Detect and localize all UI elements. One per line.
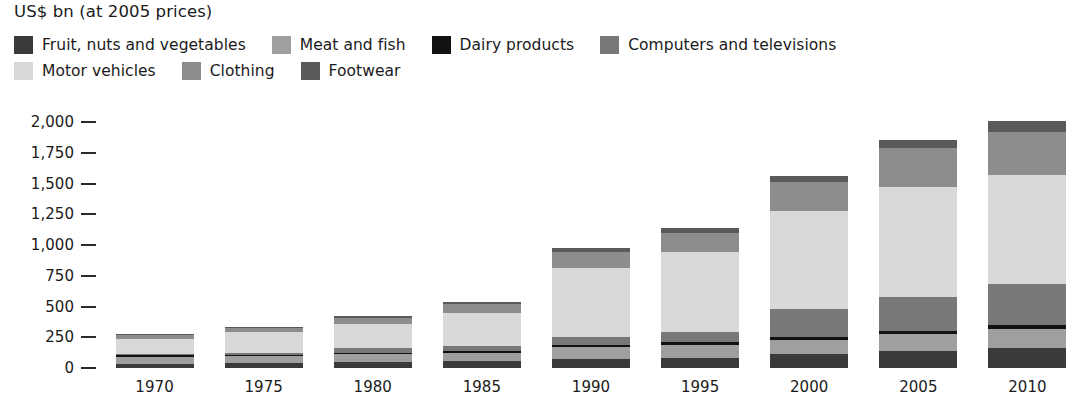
y-axis-tick-mark — [81, 336, 96, 338]
y-axis-tick-label: 750 — [45, 267, 74, 285]
y-axis-tick-label: 0 — [64, 359, 74, 377]
y-axis-tick-mark — [81, 244, 96, 246]
bar-segment[interactable] — [988, 175, 1066, 284]
x-axis-tick-label: 2005 — [879, 378, 957, 396]
y-axis: 2,0001,7501,5001,2501,0007505002500 — [0, 0, 100, 398]
bar-stack — [443, 302, 521, 368]
bar-segment[interactable] — [334, 324, 412, 349]
bar-segment[interactable] — [552, 347, 630, 359]
bar-stack — [116, 334, 194, 368]
bar-stack — [879, 140, 957, 368]
y-axis-tick-label: 1,750 — [31, 144, 74, 162]
bar-stack — [661, 228, 739, 368]
bar-segment[interactable] — [661, 345, 739, 358]
bar-stack — [334, 316, 412, 368]
bar-group[interactable]: 1975 — [225, 0, 303, 398]
bar-segment[interactable] — [116, 364, 194, 368]
y-axis-tick: 1,000 — [0, 237, 100, 253]
bar-stack — [770, 176, 848, 368]
bar-segment[interactable] — [116, 357, 194, 364]
y-axis-tick: 1,750 — [0, 145, 100, 161]
y-axis-tick: 250 — [0, 329, 100, 345]
y-axis-tick-mark — [81, 152, 96, 154]
x-axis-tick-label: 1980 — [334, 378, 412, 396]
bar-segment[interactable] — [225, 332, 303, 352]
y-axis-tick-label: 500 — [45, 298, 74, 316]
bar-segment[interactable] — [661, 252, 739, 331]
bar-segment[interactable] — [770, 182, 848, 210]
bar-group[interactable]: 2010 — [988, 0, 1066, 398]
bar-segment[interactable] — [988, 329, 1066, 348]
y-axis-tick-mark — [81, 183, 96, 185]
y-axis-tick: 2,000 — [0, 114, 100, 130]
bar-segment[interactable] — [225, 356, 303, 363]
bar-segment[interactable] — [661, 233, 739, 252]
y-axis-tick: 1,250 — [0, 206, 100, 222]
bar-group[interactable]: 1990 — [552, 0, 630, 398]
y-axis-tick: 500 — [0, 299, 100, 315]
x-axis-tick-label: 1990 — [552, 378, 630, 396]
bar-segment[interactable] — [661, 358, 739, 368]
x-axis-tick-label: 2000 — [770, 378, 848, 396]
y-axis-tick: 0 — [0, 360, 100, 376]
bar-group[interactable]: 1995 — [661, 0, 739, 398]
bar-segment[interactable] — [879, 148, 957, 187]
y-axis-tick-label: 2,000 — [31, 113, 74, 131]
bar-segment[interactable] — [443, 361, 521, 368]
bar-segment[interactable] — [116, 339, 194, 354]
y-axis-tick-mark — [81, 121, 96, 123]
bar-segment[interactable] — [443, 353, 521, 361]
y-axis-tick: 1,500 — [0, 176, 100, 192]
x-axis-tick-label: 2010 — [988, 378, 1066, 396]
y-axis-tick-label: 250 — [45, 328, 74, 346]
y-axis-tick-mark — [81, 306, 96, 308]
bar-segment[interactable] — [879, 334, 957, 351]
bar-segment[interactable] — [552, 252, 630, 267]
bar-segment[interactable] — [770, 340, 848, 355]
x-axis-tick-label: 1995 — [661, 378, 739, 396]
y-axis-tick-label: 1,500 — [31, 175, 74, 193]
bar-segment[interactable] — [770, 309, 848, 337]
bar-segment[interactable] — [988, 132, 1066, 175]
bar-group[interactable]: 1970 — [116, 0, 194, 398]
bar-stack — [552, 248, 630, 368]
bar-segment[interactable] — [879, 140, 957, 147]
bar-stack — [225, 327, 303, 368]
bar-segment[interactable] — [334, 354, 412, 361]
bar-segment[interactable] — [552, 268, 630, 337]
x-axis-tick-label: 1970 — [116, 378, 194, 396]
y-axis-tick-mark — [81, 275, 96, 277]
y-axis-tick: 750 — [0, 268, 100, 284]
bar-segment[interactable] — [879, 351, 957, 368]
bar-segment[interactable] — [443, 313, 521, 346]
bar-group[interactable]: 2000 — [770, 0, 848, 398]
bar-segment[interactable] — [661, 332, 739, 342]
bar-segment[interactable] — [552, 337, 630, 345]
bar-group[interactable]: 1980 — [334, 0, 412, 398]
bar-segment[interactable] — [988, 121, 1066, 131]
bar-segment[interactable] — [988, 348, 1066, 368]
x-axis-tick-label: 1985 — [443, 378, 521, 396]
bar-stack — [988, 121, 1066, 368]
bar-segment[interactable] — [770, 354, 848, 368]
y-axis-tick-label: 1,000 — [31, 236, 74, 254]
y-axis-tick-mark — [81, 213, 96, 215]
x-axis-tick-label: 1975 — [225, 378, 303, 396]
bar-segment[interactable] — [879, 297, 957, 331]
bar-segment[interactable] — [770, 211, 848, 309]
bar-segment[interactable] — [334, 362, 412, 368]
bar-segment[interactable] — [988, 284, 1066, 325]
bar-segment[interactable] — [552, 359, 630, 368]
y-axis-tick-mark — [81, 367, 96, 369]
stacked-bar-chart: US$ bn (at 2005 prices) Fruit, nuts and … — [0, 0, 1082, 398]
bars-area: 197019751980198519901995200020052010 — [100, 0, 1082, 398]
bar-segment[interactable] — [443, 304, 521, 313]
bar-segment[interactable] — [225, 363, 303, 368]
y-axis-tick-label: 1,250 — [31, 205, 74, 223]
bar-group[interactable]: 2005 — [879, 0, 957, 398]
bar-segment[interactable] — [879, 187, 957, 296]
bar-group[interactable]: 1985 — [443, 0, 521, 398]
